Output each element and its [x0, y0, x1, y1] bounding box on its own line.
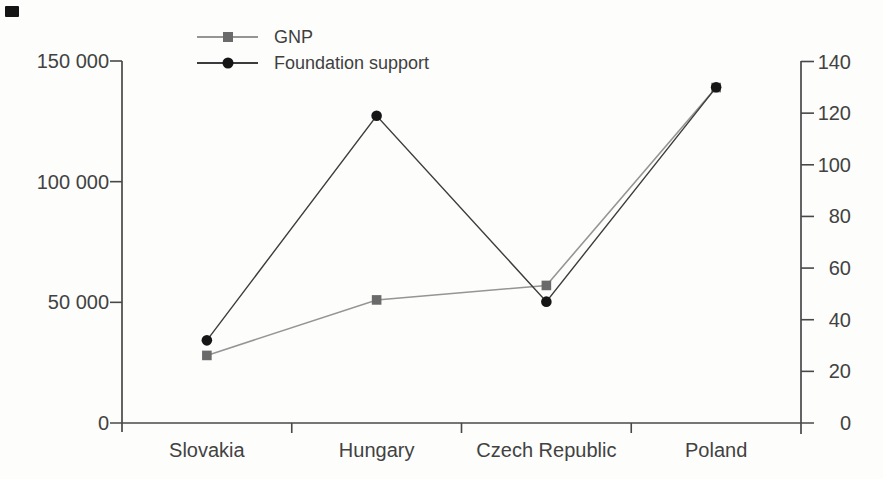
right-axis-tick-label: 20	[829, 361, 851, 381]
chart-canvas	[0, 0, 883, 479]
foundation-support-point-hungary	[371, 110, 382, 121]
foundation-support-point-slovakia	[202, 335, 213, 346]
category-label-hungary: Hungary	[339, 440, 415, 460]
legend-label-foundation-support: Foundation support	[274, 54, 429, 72]
series-group	[202, 82, 722, 360]
legend-item-foundation-support: Foundation support	[197, 50, 429, 76]
chart-legend: GNP Foundation support	[197, 24, 429, 76]
category-label-czech-republic: Czech Republic	[476, 440, 616, 460]
foundation-support-point-poland	[711, 82, 722, 93]
axes-group	[110, 61, 814, 434]
gnp-square-marker-icon	[223, 32, 233, 42]
foundation-support-circle-marker-icon	[222, 58, 233, 69]
left-axis-tick-label: 150 000	[37, 51, 109, 71]
foundation-support-line-sample	[197, 62, 258, 64]
right-axis-tick-label: 80	[829, 206, 851, 226]
foundation-support-series-line	[207, 87, 716, 340]
right-axis-tick-label: 0	[840, 413, 851, 433]
right-axis-tick-label: 100	[818, 155, 851, 175]
right-axis-tick-label: 140	[818, 52, 851, 72]
foundation-support-point-czech-republic	[541, 296, 552, 307]
right-axis-tick-label: 40	[829, 310, 851, 330]
right-axis-tick-label: 60	[829, 258, 851, 278]
category-label-poland: Poland	[685, 440, 747, 460]
left-axis-tick-label: 50 000	[48, 292, 109, 312]
gnp-point-hungary	[372, 295, 382, 305]
legend-item-gnp: GNP	[197, 24, 429, 50]
gnp-series-line	[207, 88, 716, 356]
gnp-point-czech-republic	[542, 281, 552, 291]
category-label-slovakia: Slovakia	[169, 440, 245, 460]
chart-figure: 050 000100 000150 000 020406080100120140…	[0, 0, 883, 479]
right-axis-tick-label: 120	[818, 103, 851, 123]
gnp-line-sample	[197, 36, 258, 38]
gnp-point-slovakia	[202, 351, 212, 361]
left-axis-tick-label: 0	[98, 413, 109, 433]
left-axis-tick-label: 100 000	[37, 172, 109, 192]
legend-label-gnp: GNP	[274, 28, 313, 46]
